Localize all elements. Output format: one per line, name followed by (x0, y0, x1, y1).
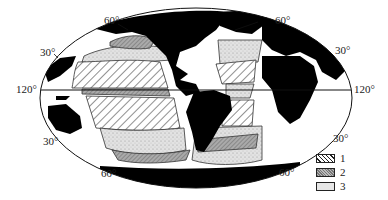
lat-label-60-north-left: 60° (104, 15, 119, 26)
dark-stipple-swatch-icon (316, 168, 335, 177)
zone-3-equatorial-atlantic (226, 84, 254, 98)
zone-1-south-pacific (86, 96, 180, 130)
light-stipple-swatch-icon (316, 182, 335, 191)
lat-label-30-north-right: 30° (335, 45, 350, 56)
legend-label: 1 (340, 152, 346, 164)
lat-label-120-left: 120° (16, 84, 37, 95)
lat-label-120-right: 120° (354, 84, 375, 95)
lat-label-30-north-left: 30° (40, 47, 55, 58)
zone-1-north-atlantic (216, 60, 256, 84)
legend-item-1: 1 (316, 152, 346, 164)
lat-label-60-south-left: 60° (101, 168, 116, 179)
zone-1-north-pacific (72, 60, 168, 88)
lat-label-30-south-right: 30° (333, 133, 348, 144)
legend-label: 3 (340, 180, 346, 192)
lat-label-60-south-right: 60° (279, 167, 294, 178)
hatch-swatch-icon (316, 154, 335, 163)
legend-label: 2 (340, 166, 346, 178)
legend-item-3: 3 (316, 180, 346, 192)
legend-item-2: 2 (316, 166, 346, 178)
lat-label-30-south-left: 30° (43, 136, 58, 147)
legend: 1 2 3 (316, 152, 346, 194)
lat-label-60-north-right: 60° (275, 15, 290, 26)
